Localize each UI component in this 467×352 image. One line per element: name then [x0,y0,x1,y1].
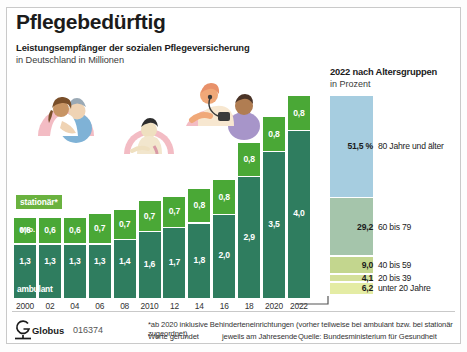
age-value-label: 9,0 [330,260,373,270]
illustration-nurse-measuring-blood-pressure [178,80,264,140]
bar-label-ambulant: 1,7 [163,257,185,267]
bar-label-ambulant: 3,5 [263,219,285,229]
age-category-label: 40 bis 59 [378,260,411,270]
bar-segment-ambulant [89,245,111,298]
illustration-senior-with-cane [118,110,180,162]
bar-label-stationaer: 0,7 [163,206,185,216]
bar-label-stationaer: 0,7 [89,223,111,233]
age-value-label: 51,5 % [330,141,373,151]
bar-segment-ambulant [114,240,136,298]
age-value-label: 4,1 [330,273,373,283]
age-value-label: 29,2 [330,222,373,232]
bar-label-stationaer: 0,8 [238,154,260,164]
unit-label-mio: Mio. [20,225,35,234]
bar-label-stationaer: 0,8 [213,192,235,202]
bar-label-ambulant: 1,3 [64,256,86,266]
footer-divider [12,311,455,312]
age-category-label: 60 bis 79 [378,222,411,232]
bar-label-ambulant: 4,0 [288,208,310,218]
bar-label-stationaer: 0,8 [263,129,285,139]
bar-label-stationaer: 0,7 [139,211,161,221]
age-panel-subtitle: in Prozent [330,79,371,89]
bar-column: 0,71,4 [114,210,136,298]
globus-logo-icon [13,318,33,340]
bar-label-ambulant: 1,8 [188,255,210,265]
bar-label-ambulant: 1,4 [114,256,136,266]
age-category-label: 20 bis 39 [378,273,411,283]
bar-label-ambulant: 1,3 [39,256,61,266]
bar-column: 0,71,6 [139,201,161,298]
bar-label-ambulant: 2,9 [238,232,260,242]
bar-label-ambulant: 1,6 [139,259,161,269]
bar-column: 0,83,5 [263,117,285,298]
bar-label-stationaer: 0,6 [64,225,86,235]
bar-column: 0,71,7 [163,197,185,298]
age-category-label: 80 Jahre und älter [378,141,444,151]
infographic-root: Pflegebedürftig Leistungsempfänger der s… [0,0,467,352]
bar-label-ambulant: 1,3 [14,256,36,266]
bar-label-stationaer: 0,6 [39,225,61,235]
illustration-caregiver-and-senior [28,88,102,146]
globus-number: 016374 [73,325,103,335]
age-value-label: 6,2 [330,283,373,293]
connector-line [296,296,336,310]
bar-column: 0,71,3 [89,214,111,298]
bar-label-stationaer: 0,7 [114,219,136,229]
bar-segment-ambulant [64,245,86,298]
subtitle-primary: Leistungsempfänger der sozialen Pflegeve… [16,42,250,53]
bar-column: 0,82,9 [238,143,260,298]
bar-column: 0,81,8 [188,189,210,298]
bar-column: 0,61,3 [64,218,86,298]
source-label: Quelle: Bundesministerium für Gesundheit [298,332,437,341]
legend-stationaer-badge: stationär* [16,195,62,209]
bar-label-ambulant: 2,0 [213,250,235,260]
bar-label-stationaer: 0,8 [288,108,310,118]
subtitle-secondary: in Deutschland in Millionen [16,55,124,65]
bar-label-ambulant: 1,3 [89,256,111,266]
globus-wordmark: Globus [32,325,64,336]
legend-ambulant-label: ambulant [17,284,53,294]
footnote-rounded: Werte gerundet [148,332,199,341]
age-panel-title: 2022 nach Altersgruppen [330,66,437,77]
bar-label-stationaer: 0,8 [188,200,210,210]
age-category-label: unter 20 Jahre [378,283,431,293]
page-title: Pflegebedürftig [16,10,166,34]
bar-column: 0,84,0 [288,96,310,298]
footnote-year-end: jeweils am Jahresende [222,332,297,341]
bar-column: 0,82,0 [213,180,235,298]
